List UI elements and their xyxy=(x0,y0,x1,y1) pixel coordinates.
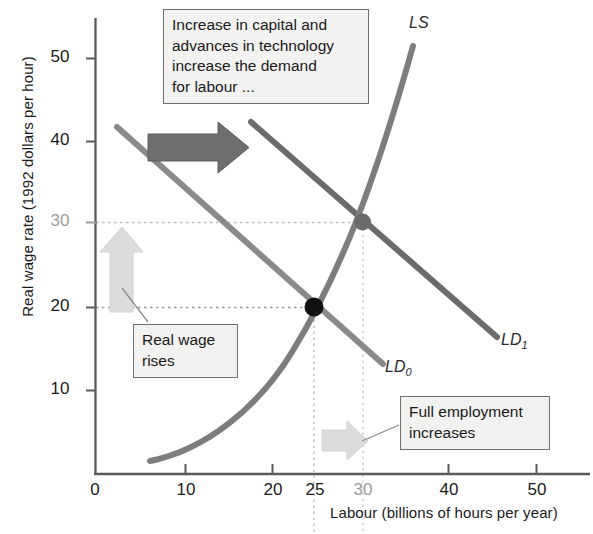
curve-label-ld1: LD1 xyxy=(501,331,528,351)
y-tick-label-10: 10 xyxy=(42,379,78,399)
curve-ls xyxy=(150,46,413,461)
x-tick-label-50: 50 xyxy=(520,480,554,500)
curve-label-ls: LS xyxy=(409,14,429,32)
initial-equilibrium-point xyxy=(305,298,324,317)
y-tick-label-20: 20 xyxy=(42,296,78,316)
employment-rise-arrow xyxy=(322,421,368,460)
curve-label-ld0-sub: 0 xyxy=(405,366,411,378)
x-axis-title: Labour (billions of hours per year) xyxy=(330,504,558,521)
labour-market-chart: Real wage rate (1992 dollars per hour) L… xyxy=(0,0,593,534)
curve-label-ld1-sub: 1 xyxy=(521,339,527,351)
curve-label-ls-text: LS xyxy=(409,14,429,31)
x-tick-label-0: 0 xyxy=(78,480,112,500)
x-tick-label-40: 40 xyxy=(432,480,466,500)
x-tick-label-25: 25 xyxy=(298,480,332,500)
curve-label-ld0: LD0 xyxy=(385,358,412,378)
curve-label-ld0-text: LD xyxy=(385,358,405,375)
callout-demand-shift: Increase in capital and advances in tech… xyxy=(163,9,369,104)
callout-real-wage-rises: Real wage rises xyxy=(133,324,238,378)
new-equilibrium-point xyxy=(354,214,371,231)
y-axis-title: Real wage rate (1992 dollars per hour) xyxy=(19,32,36,342)
wage-rise-arrow xyxy=(100,227,143,312)
y-tick-label-30: 30 xyxy=(42,211,78,231)
callout-full-employment: Full employment increases xyxy=(400,396,550,450)
curve-label-ld1-text: LD xyxy=(501,331,521,348)
employment-callout-leader xyxy=(362,425,399,441)
x-tick-label-10: 10 xyxy=(169,480,203,500)
x-tick-label-30: 30 xyxy=(346,480,380,500)
curve-ld1 xyxy=(251,122,497,337)
y-tick-label-40: 40 xyxy=(42,130,78,150)
y-tick-label-50: 50 xyxy=(42,47,78,67)
x-tick-label-20: 20 xyxy=(256,480,290,500)
